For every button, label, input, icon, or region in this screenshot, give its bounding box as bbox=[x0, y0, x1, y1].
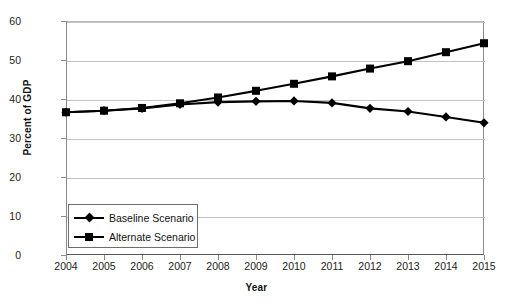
legend-label: Alternate Scenario bbox=[109, 231, 195, 243]
data-point-square bbox=[214, 93, 222, 101]
data-point-diamond bbox=[251, 97, 260, 106]
legend: Baseline Scenario Alternate Scenario bbox=[68, 204, 198, 248]
series-line bbox=[66, 101, 484, 123]
series-baseline-scenario bbox=[61, 96, 488, 127]
data-point-square bbox=[176, 99, 184, 107]
data-point-square bbox=[442, 48, 450, 56]
data-point-square bbox=[328, 72, 336, 80]
data-point-square bbox=[252, 87, 260, 95]
legend-marker-diamond-icon bbox=[74, 212, 104, 224]
data-point-diamond bbox=[403, 107, 412, 116]
x-axis-title: Year bbox=[0, 282, 513, 293]
data-point-square bbox=[366, 65, 374, 73]
legend-marker-square-icon bbox=[74, 231, 104, 243]
data-point-square bbox=[480, 39, 488, 47]
data-point-square bbox=[100, 107, 108, 115]
data-point-square bbox=[138, 104, 146, 112]
legend-label: Baseline Scenario bbox=[109, 212, 194, 224]
data-point-square bbox=[290, 80, 298, 88]
data-point-diamond bbox=[479, 118, 488, 127]
data-point-diamond bbox=[365, 104, 374, 113]
data-point-diamond bbox=[289, 96, 298, 105]
data-point-diamond bbox=[327, 98, 336, 107]
legend-item-alternate[interactable]: Alternate Scenario bbox=[74, 227, 192, 246]
series-layer bbox=[0, 0, 513, 304]
series-alternate-scenario bbox=[62, 39, 488, 116]
data-point-square bbox=[62, 108, 70, 116]
data-point-square bbox=[404, 57, 412, 65]
legend-item-baseline[interactable]: Baseline Scenario bbox=[74, 208, 192, 227]
chart-container: Percent of GDP 60 50 40 30 20 10 0 2004 … bbox=[0, 0, 513, 304]
data-point-diamond bbox=[441, 112, 450, 121]
